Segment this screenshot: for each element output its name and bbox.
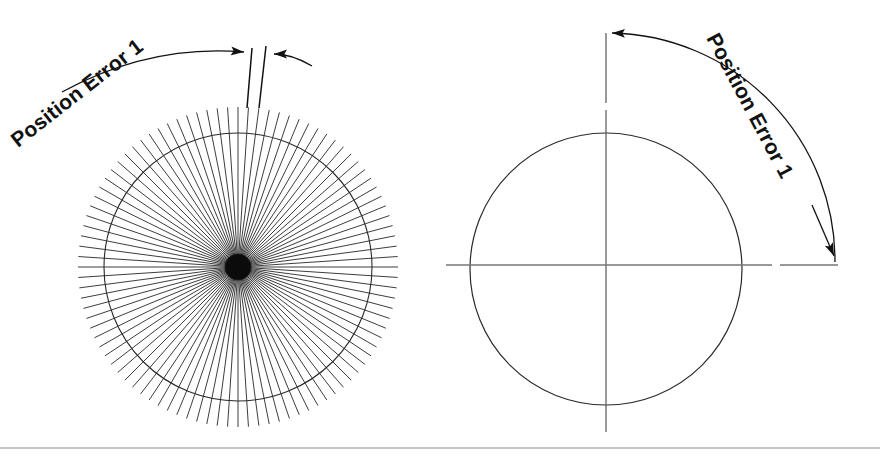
right-panel-group: Position Error 1 [446, 29, 838, 432]
radial-spoke [90, 206, 232, 265]
radial-spoke [243, 271, 359, 373]
radial-spoke [149, 272, 235, 400]
radial-spoke [243, 270, 371, 356]
radial-spoke [242, 271, 351, 380]
radial-spokes [78, 107, 398, 427]
radial-spoke [105, 178, 233, 264]
position-error-label-right: Position Error 1 [702, 29, 798, 182]
right-label-group: Position Error 1 [702, 29, 798, 182]
radial-spoke [244, 268, 397, 288]
spoke-hub [225, 254, 251, 280]
radial-spoke [244, 206, 386, 265]
radial-spoke [241, 124, 309, 262]
radial-spoke [133, 272, 235, 388]
radial-spoke [118, 271, 234, 373]
left-label-group: Position Error 1 [6, 34, 147, 151]
radial-spoke [240, 115, 290, 261]
extension-line-right [259, 46, 266, 108]
radial-spoke [95, 196, 233, 264]
radial-spoke [79, 268, 232, 288]
radial-spoke [125, 271, 234, 380]
radial-spoke [244, 246, 397, 266]
radial-spoke [243, 196, 381, 264]
radial-spoke [177, 119, 236, 261]
radial-spoke [240, 273, 299, 415]
radial-spoke [241, 272, 309, 410]
radial-spoke [167, 124, 235, 262]
radial-spoke [217, 273, 237, 426]
radial-spoke [243, 178, 371, 264]
radial-spoke [105, 270, 233, 356]
diagram-canvas: Position Error 1 Position Error 1 [0, 0, 880, 458]
radial-spoke [244, 216, 390, 266]
radial-spoke [95, 270, 233, 338]
radial-spoke [241, 272, 327, 400]
radial-spoke [86, 269, 232, 319]
radial-spoke [242, 154, 351, 263]
radial-spoke [187, 115, 237, 261]
position-error-label-left: Position Error 1 [6, 34, 147, 151]
extension-line-left [247, 48, 252, 108]
radial-spoke [244, 269, 386, 328]
radial-spoke [217, 108, 237, 261]
radial-spoke [244, 269, 390, 319]
radial-spoke [242, 147, 344, 263]
left-panel-group: Position Error 1 [6, 34, 398, 427]
radial-spoke [243, 270, 381, 338]
radial-spoke [240, 273, 290, 419]
radial-spoke [118, 162, 234, 264]
radial-spoke [240, 119, 299, 261]
radial-spoke [239, 108, 259, 261]
radial-spoke [243, 162, 359, 264]
dimension-arrow-right-side [274, 54, 312, 66]
radial-spoke [241, 134, 327, 262]
radial-spoke [242, 272, 344, 388]
radial-spoke [149, 134, 235, 262]
radial-spoke [90, 269, 232, 328]
radial-spoke [177, 273, 236, 415]
radial-spoke [187, 273, 237, 419]
radial-spoke [86, 216, 232, 266]
technical-drawing-svg: Position Error 1 Position Error 1 [0, 0, 880, 458]
radial-spoke [239, 273, 259, 426]
radial-spoke [79, 246, 232, 266]
radial-spoke [133, 147, 235, 263]
sweep-arc-end-arrow [812, 205, 834, 256]
radial-spoke [167, 272, 235, 410]
radial-spoke [125, 154, 234, 263]
